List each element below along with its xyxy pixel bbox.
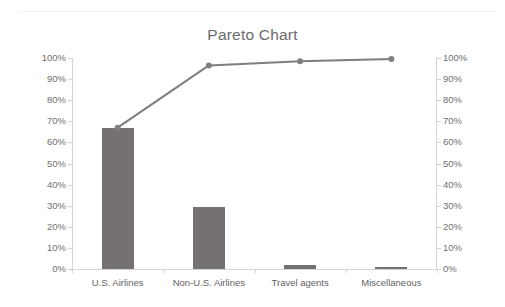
left-axis-tick-label: 40%	[47, 180, 66, 190]
category-label: Non-U.S. Airlines	[173, 277, 245, 288]
right-axis-tick-label: 10%	[443, 243, 462, 253]
right-axis-tick	[437, 164, 441, 165]
left-axis-tick-labels: 0%10%20%30%40%50%60%70%80%90%100%	[22, 58, 66, 269]
right-axis-tick	[437, 185, 441, 186]
right-axis-tick	[437, 79, 441, 80]
category-label: Travel agents	[272, 277, 329, 288]
line-marker	[206, 62, 212, 68]
category-axis-tick	[346, 269, 347, 273]
right-axis-tick-label: 30%	[443, 201, 462, 211]
right-axis-tick-label: 90%	[443, 74, 462, 84]
right-axis-tick	[437, 227, 441, 228]
right-axis-tick-label: 100%	[443, 53, 467, 63]
right-axis-tick-label: 60%	[443, 137, 462, 147]
category-axis-tick	[163, 269, 164, 273]
line-marker	[115, 125, 121, 131]
right-axis-tick-label: 70%	[443, 116, 462, 126]
cumulative-line-series	[72, 58, 437, 269]
left-axis-tick-label: 30%	[47, 201, 66, 211]
chart-title: Pareto Chart	[0, 26, 505, 44]
right-axis-tick	[437, 58, 441, 59]
right-axis-tick	[437, 100, 441, 101]
plot-area	[72, 58, 437, 269]
left-axis-tick-label: 0%	[52, 264, 66, 274]
left-axis-tick-label: 90%	[47, 74, 66, 84]
left-axis-tick-label: 50%	[47, 159, 66, 169]
right-axis-tick	[437, 121, 441, 122]
cumulative-line	[118, 59, 392, 128]
right-axis-tick-labels: 0%10%20%30%40%50%60%70%80%90%100%	[443, 58, 493, 269]
category-axis-tick	[72, 269, 73, 273]
right-axis-tick	[437, 142, 441, 143]
category-label: Miscellaneous	[361, 277, 421, 288]
line-marker	[388, 56, 394, 62]
left-axis-tick-label: 10%	[47, 243, 66, 253]
left-axis-tick-label: 80%	[47, 95, 66, 105]
scan-artifact-line	[18, 11, 496, 12]
category-axis-tick	[255, 269, 256, 273]
right-axis-tick	[437, 248, 441, 249]
right-axis-tick-label: 50%	[443, 159, 462, 169]
category-label: U.S. Airlines	[92, 277, 144, 288]
left-axis-tick-label: 60%	[47, 137, 66, 147]
pareto-chart-screenshot: Pareto Chart 0%10%20%30%40%50%60%70%80%9…	[0, 0, 505, 307]
right-axis-tick-label: 20%	[443, 222, 462, 232]
left-axis-tick-label: 70%	[47, 116, 66, 126]
left-axis-tick-label: 100%	[42, 53, 66, 63]
right-axis-tick	[437, 206, 441, 207]
right-axis-tick-label: 40%	[443, 180, 462, 190]
right-axis-tick-label: 80%	[443, 95, 462, 105]
line-marker	[297, 58, 303, 64]
right-axis-tick-label: 0%	[443, 264, 457, 274]
left-axis-tick-label: 20%	[47, 222, 66, 232]
category-axis-labels: U.S. AirlinesNon-U.S. AirlinesTravel age…	[72, 277, 437, 293]
category-axis-tick	[437, 269, 438, 273]
